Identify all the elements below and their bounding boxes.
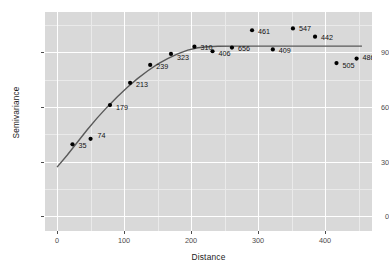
y-tick-label: 90 (363, 48, 389, 57)
data-point-label: 310 (200, 44, 212, 51)
data-point-label: 35 (79, 142, 87, 149)
x-tick-mark (124, 231, 125, 234)
x-tick-mark (258, 231, 259, 234)
x-tick-mark (57, 231, 58, 234)
y-tick-label: 0 (363, 212, 389, 221)
x-tick-mark (325, 231, 326, 234)
data-points (70, 26, 358, 146)
data-point-label: 179 (116, 104, 128, 111)
data-point-label: 74 (98, 132, 106, 139)
y-tick-mark (41, 216, 44, 217)
data-point (334, 61, 338, 65)
data-point (70, 142, 74, 146)
data-point-label: 547 (299, 25, 311, 32)
plot-panel: 3574179213239323310406656461409547442505… (45, 12, 372, 231)
y-axis-title: Semivariance (12, 48, 21, 178)
fitted-curve (57, 46, 362, 167)
x-tick-label: 400 (310, 236, 340, 245)
y-tick-label: 60 (363, 103, 389, 112)
y-tick-mark (41, 107, 44, 108)
data-point (271, 47, 275, 51)
data-point-label: 239 (156, 63, 168, 70)
data-point (354, 56, 358, 60)
x-axis-title: Distance (45, 252, 372, 262)
y-tick-mark (41, 162, 44, 163)
y-tick-mark (41, 52, 44, 53)
x-tick-label: 0 (42, 236, 72, 245)
y-tick-label: 30 (363, 158, 389, 167)
data-point (148, 63, 152, 67)
x-tick-label: 100 (109, 236, 139, 245)
data-point (88, 137, 92, 141)
semivariogram-chart: Semivariance Distance 357417921323932331… (0, 0, 389, 270)
data-point-label: 505 (343, 62, 355, 69)
data-point-label: 213 (136, 81, 148, 88)
data-point (250, 28, 254, 32)
data-point (108, 103, 112, 107)
data-point-label: 323 (177, 54, 189, 61)
data-point-label: 461 (258, 28, 270, 35)
data-point-label: 406 (219, 50, 231, 57)
data-point (291, 26, 295, 30)
data-point-label: 656 (238, 45, 250, 52)
data-point-label: 442 (321, 34, 333, 41)
x-tick-label: 200 (176, 236, 206, 245)
x-tick-mark (191, 231, 192, 234)
data-point (169, 52, 173, 56)
x-tick-label: 300 (243, 236, 273, 245)
data-point-label: 409 (279, 47, 291, 54)
data-point (128, 81, 132, 85)
data-point (192, 45, 196, 49)
data-point (313, 35, 317, 39)
